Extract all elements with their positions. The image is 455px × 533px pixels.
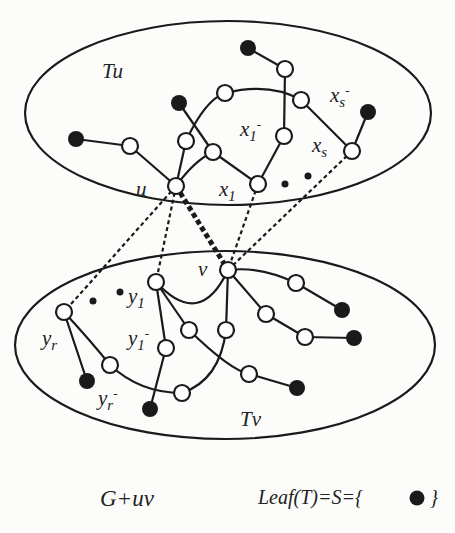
region-tv-ellipse bbox=[15, 251, 435, 439]
node-v bbox=[220, 262, 236, 278]
label-y1-minus: y1- bbox=[126, 326, 149, 353]
node-x1-minus bbox=[276, 128, 292, 144]
region-tu-label: Tu bbox=[102, 59, 123, 83]
caption-leaf-set: Leaf(T)=S={ bbox=[257, 486, 363, 509]
label-x1: x1 bbox=[218, 177, 236, 204]
label-x1-minus: x1- bbox=[239, 117, 261, 144]
label-v: v bbox=[198, 257, 208, 281]
node-yr bbox=[56, 304, 72, 320]
graph-diagram: Tu Tv u v x1 x1- xs xs- y1 y1- yr yr- G+… bbox=[0, 0, 455, 533]
caption-graph: G+uv bbox=[100, 486, 155, 511]
caption-leaf-set-close: } bbox=[430, 486, 438, 508]
node-y1-minus bbox=[158, 340, 174, 356]
node-u bbox=[168, 178, 184, 194]
label-xs-minus: xs- bbox=[329, 83, 350, 110]
legend-leaf-icon bbox=[410, 491, 425, 506]
label-u: u bbox=[136, 177, 147, 201]
region-tv-label: Tv bbox=[240, 407, 262, 431]
node-xs bbox=[344, 143, 360, 159]
node-y1 bbox=[148, 274, 164, 290]
label-xs: xs bbox=[311, 133, 327, 160]
label-yr: yr bbox=[40, 326, 57, 353]
node-x1 bbox=[250, 176, 266, 192]
node-xs-minus bbox=[360, 104, 376, 120]
label-yr-minus: yr- bbox=[96, 386, 118, 413]
label-y1: y1 bbox=[126, 284, 145, 311]
